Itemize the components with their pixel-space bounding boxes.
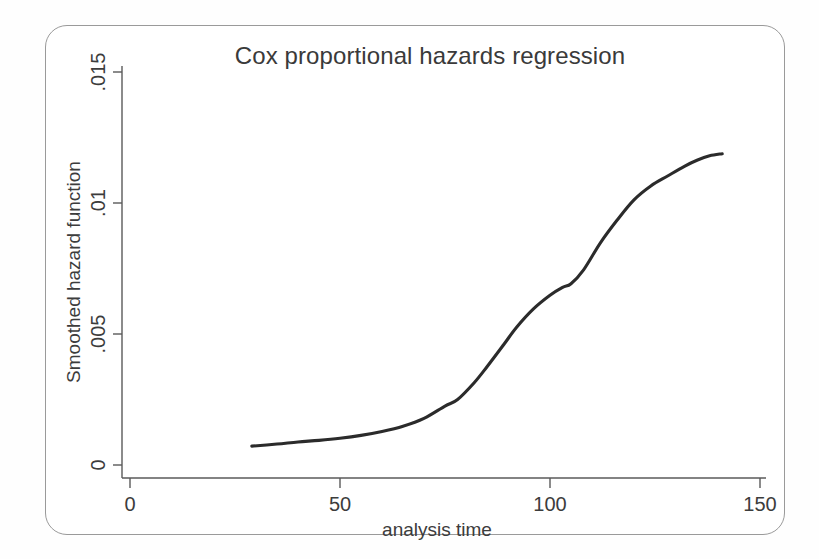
y-tick-label-015: .015 bbox=[87, 53, 109, 92]
x-axis-ticks: 0 50 100 150 bbox=[124, 478, 776, 515]
y-tick-label-01: .01 bbox=[87, 189, 109, 217]
y-tick-label-0: 0 bbox=[87, 459, 109, 470]
hazard-function-chart: .015 .01 .005 0 0 50 100 150 analysis ti… bbox=[0, 0, 819, 559]
x-axis-title: analysis time bbox=[382, 519, 492, 540]
y-tick-label-005: .005 bbox=[87, 315, 109, 354]
y-axis-title: Smoothed hazard function bbox=[63, 161, 84, 383]
chart-page: Cox proportional hazards regression .015… bbox=[0, 0, 819, 559]
x-tick-label-0: 0 bbox=[124, 493, 135, 515]
x-tick-label-150: 150 bbox=[743, 493, 776, 515]
x-tick-label-50: 50 bbox=[329, 493, 351, 515]
x-tick-label-100: 100 bbox=[533, 493, 566, 515]
hazard-curve-line bbox=[252, 154, 722, 446]
y-axis-ticks: .015 .01 .005 0 bbox=[87, 53, 122, 471]
